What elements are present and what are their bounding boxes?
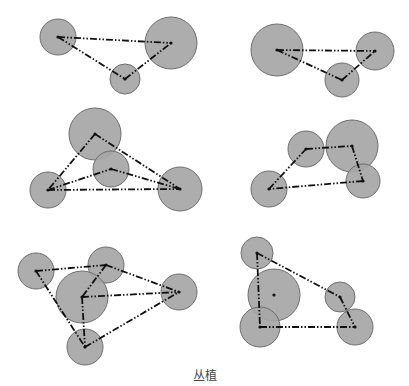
connection-line	[48, 189, 180, 190]
center-dot	[373, 49, 376, 52]
center-dot	[93, 132, 96, 135]
center-dot	[46, 188, 49, 191]
figure-caption: 丛植	[0, 366, 409, 383]
center-dot	[272, 293, 275, 296]
center-dot	[34, 269, 37, 272]
center-dot	[56, 35, 59, 38]
center-dot	[340, 78, 343, 81]
group-3-top-right	[251, 24, 394, 97]
center-dot	[104, 263, 107, 266]
center-dot	[361, 179, 364, 182]
center-dot	[177, 290, 180, 293]
center-dot	[338, 295, 341, 298]
center-dot	[304, 147, 307, 150]
center-dot	[258, 325, 261, 328]
center-dot	[109, 167, 112, 170]
center-dot	[169, 41, 172, 44]
center-dot	[267, 187, 270, 190]
group-4-middle-right	[251, 120, 380, 207]
plant-cluster-diagrams	[0, 0, 409, 386]
group-5-bottom-right	[240, 237, 373, 347]
center-dot	[123, 77, 126, 80]
center-dot	[353, 325, 356, 328]
group-3-top-left	[40, 17, 197, 94]
group-5-bottom-left	[18, 247, 197, 365]
center-dot	[178, 187, 181, 190]
center-dot	[275, 48, 278, 51]
group-4-middle-left	[30, 108, 202, 211]
center-dot	[80, 295, 83, 298]
center-dot	[83, 345, 86, 348]
center-dot	[350, 144, 353, 147]
center-dot	[255, 251, 258, 254]
